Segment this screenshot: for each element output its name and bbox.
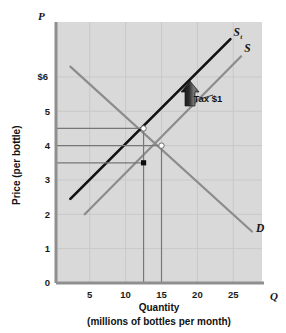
y-tick-label: 5 bbox=[45, 106, 51, 117]
y-tick-label: 2 bbox=[45, 209, 50, 220]
x-tick-label: 5 bbox=[87, 289, 93, 300]
curve-label-D: D bbox=[255, 222, 265, 234]
annotation-tax-arrow: Tax $1 bbox=[193, 93, 223, 104]
y-axis-symbol: P bbox=[38, 10, 45, 22]
plot-area-background bbox=[56, 22, 262, 283]
supply-demand-tax-chart: 012345$6510152025DSStTax $1 P Q Price (p… bbox=[0, 0, 286, 333]
marker-equilibrium-with-tax bbox=[141, 126, 146, 131]
chart-figure: 012345$6510152025DSStTax $1 P Q Price (p… bbox=[0, 0, 286, 333]
x-tick-label: 25 bbox=[228, 289, 239, 300]
x-axis-symbol: Q bbox=[270, 290, 278, 302]
x-tick-label: 10 bbox=[120, 289, 131, 300]
x-tick-label: 20 bbox=[192, 289, 203, 300]
y-tick-label: 4 bbox=[45, 140, 51, 151]
x-axis-title: Quantity bbox=[139, 302, 180, 313]
y-axis-title: Price (per bottle) bbox=[11, 126, 22, 205]
x-tick-label: 15 bbox=[156, 289, 167, 300]
x-axis-subtitle: (millions of bottles per month) bbox=[87, 316, 231, 327]
y-tick-label: 3 bbox=[45, 174, 50, 185]
marker-seller-net-price-point bbox=[141, 160, 146, 165]
y-tick-label: 1 bbox=[45, 243, 51, 254]
curve-label-S: S bbox=[244, 42, 250, 54]
y-tick-label: $6 bbox=[37, 71, 48, 82]
y-tick-label: 0 bbox=[45, 277, 50, 288]
marker-equilibrium-original bbox=[159, 143, 164, 148]
